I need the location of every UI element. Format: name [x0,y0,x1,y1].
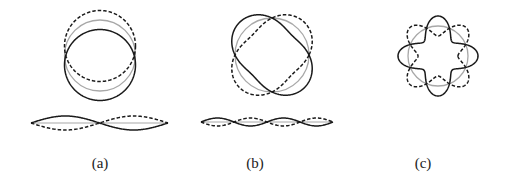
panel-c-label: (c) [415,155,432,172]
panel-b-undeformed-ring [235,18,309,92]
panel-a-label: (a) [92,155,109,172]
panel-a-deformed-ring-solid [65,30,136,101]
panel-a-undeformed-ring [65,20,136,91]
panel-b-label: (b) [246,155,264,172]
panel-a-deformed-ring-dashed [65,11,136,82]
panel-b-deformed-ring-solid [232,15,312,95]
panel-b-deformed-ring-dashed [232,15,312,95]
panel-c-undeformed-ring [408,26,468,86]
